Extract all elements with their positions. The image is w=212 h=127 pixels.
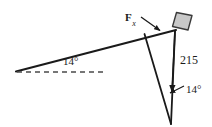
force-symbol: F (125, 11, 132, 23)
force-fx-arrow (141, 17, 160, 31)
block-on-incline (173, 13, 193, 31)
force-subscript: x (132, 19, 136, 28)
magnitude-label: 215 (180, 54, 198, 66)
incline-angle-label: 14° (63, 56, 78, 67)
force-fx-label: Fx (125, 12, 135, 26)
bottom-angle-label: 14° (186, 84, 201, 95)
inclined-plane-force-diagram: 14° 215 14° Fx (0, 0, 212, 127)
oblique-side-line (145, 34, 172, 124)
incline-surface-line (16, 30, 176, 72)
